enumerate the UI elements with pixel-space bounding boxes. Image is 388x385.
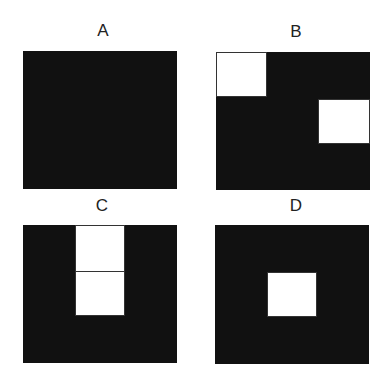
panel-a — [23, 51, 177, 189]
panel-a-label: A — [83, 21, 123, 41]
panel-b-label: B — [276, 22, 316, 42]
panel-b-white-square-right — [318, 99, 370, 144]
panel-b — [216, 52, 370, 190]
panel-b-white-square-top-left — [216, 52, 267, 97]
panel-d — [215, 225, 369, 364]
panel-d-label: D — [276, 196, 316, 216]
panel-c-label: C — [82, 196, 122, 216]
panel-d-white-square-center — [267, 272, 317, 317]
panel-c — [23, 225, 177, 363]
panel-c-column-divider — [75, 271, 125, 272]
